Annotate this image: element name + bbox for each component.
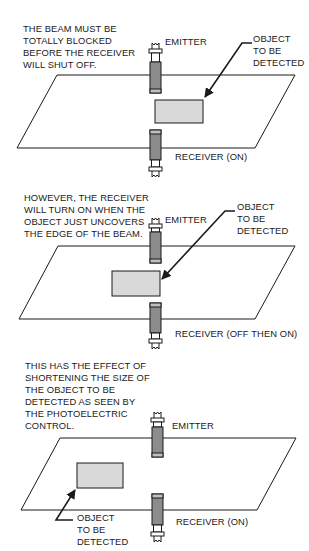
panel-1-leader-arrow-icon bbox=[205, 43, 252, 97]
panel-3-receiver-flange bbox=[151, 532, 164, 536]
panel-1-emitter-label: EMITTER bbox=[165, 36, 207, 48]
panel-1-receiver-flange bbox=[149, 167, 162, 171]
panel-2-emitter-label: EMITTER bbox=[165, 214, 207, 226]
panel-1-object-label: OBJECT TO BE DETECTED bbox=[253, 33, 304, 69]
panel-3-receiver-band bbox=[152, 494, 163, 498]
panel-2-receiver-neck bbox=[152, 333, 160, 339]
panel-3-emitter-flange bbox=[151, 418, 164, 422]
panel-1-emitter-flange bbox=[149, 49, 162, 53]
panel-3-receiver-neck bbox=[154, 525, 162, 532]
panel-1-emitter-connector-icon bbox=[152, 43, 159, 49]
panel-3-receiver-connector-icon bbox=[154, 536, 161, 542]
panel-3-emitter-neck bbox=[154, 422, 162, 427]
panel-3-caption: THIS HAS THE EFFECT OF SHORTENING THE SI… bbox=[25, 360, 150, 432]
panel-2-emitter-band bbox=[150, 259, 161, 263]
panel-3-emitter-connector-icon bbox=[154, 412, 161, 418]
panel-1-emitter-body bbox=[150, 62, 161, 93]
panel-3-emitter-label: EMITTER bbox=[172, 420, 214, 432]
panel-1-emitter-band bbox=[150, 89, 161, 93]
panel-1-receiver-band bbox=[150, 130, 161, 134]
panel-2-emitter-connector-icon bbox=[152, 218, 159, 224]
panel-2-emitter-flange bbox=[149, 224, 162, 228]
panel-2-receiver-flange bbox=[149, 339, 162, 343]
panel-2-object-box bbox=[112, 271, 160, 296]
photoelectric-beam-diagram: THE BEAM MUST BE TOTALLY BLOCKED BEFORE … bbox=[0, 0, 309, 551]
panel-1-receiver-label: RECEIVER (ON) bbox=[175, 151, 247, 163]
panel-2-object-label: OBJECT TO BE DETECTED bbox=[237, 201, 288, 237]
panel-1-caption: THE BEAM MUST BE TOTALLY BLOCKED BEFORE … bbox=[23, 23, 135, 71]
panel-3-object-box bbox=[77, 463, 123, 488]
panel-1-object-box bbox=[155, 100, 203, 123]
panel-1-receiver-neck bbox=[152, 160, 160, 167]
panel-2-receiver-label: RECEIVER (OFF THEN ON) bbox=[175, 328, 297, 340]
panel-3-receiver-label: RECEIVER (ON) bbox=[176, 516, 248, 528]
panel-1-receiver-connector-icon bbox=[152, 171, 159, 177]
panel-2-receiver-band bbox=[150, 303, 161, 307]
diagram-artwork bbox=[0, 0, 309, 551]
panel-2-emitter-body bbox=[150, 232, 161, 263]
panel-1-emitter-neck bbox=[152, 53, 160, 62]
panel-3-receiver-body bbox=[152, 494, 163, 525]
panel-2-receiver-connector-icon bbox=[152, 343, 159, 349]
panel-2-emitter-neck bbox=[152, 228, 160, 232]
panel-2-caption: HOWEVER, THE RECEIVER WILL TURN ON WHEN … bbox=[24, 192, 149, 240]
panel-3-emitter-band bbox=[152, 453, 163, 457]
panel-3-object-label: OBJECT TO BE DETECTED bbox=[77, 512, 128, 548]
panel-3-leader-arrow-icon bbox=[56, 490, 75, 520]
